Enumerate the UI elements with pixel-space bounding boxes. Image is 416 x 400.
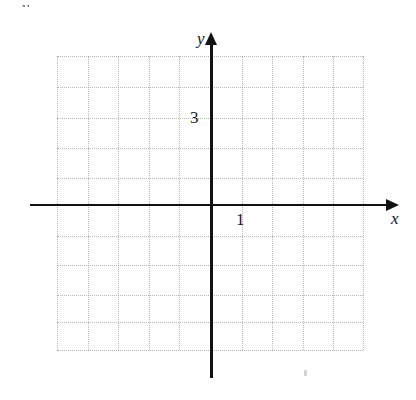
x-axis-line xyxy=(30,204,388,206)
figure-canvas: y x y 3 1 xyxy=(0,0,416,400)
grid-line-vertical xyxy=(57,56,58,350)
y-axis-line xyxy=(210,44,213,378)
grid-line-vertical xyxy=(303,56,304,350)
grid-line-vertical xyxy=(333,56,334,350)
grid-line-vertical xyxy=(118,56,119,350)
x-axis-tick-label-1: 1 xyxy=(236,211,245,228)
y-axis-label: y xyxy=(197,30,205,47)
coordinate-grid xyxy=(0,0,416,400)
x-axis-label: x xyxy=(391,210,399,227)
grid-line-vertical xyxy=(179,56,180,350)
grid-line-vertical xyxy=(363,56,364,350)
y-axis-tick-label-3: 3 xyxy=(190,109,199,126)
grid-line-vertical xyxy=(149,56,150,350)
grid-line-vertical xyxy=(272,56,273,350)
y-axis-arrow-icon xyxy=(205,32,217,45)
grid-line-vertical xyxy=(88,56,89,350)
grid-line-vertical xyxy=(242,56,243,350)
